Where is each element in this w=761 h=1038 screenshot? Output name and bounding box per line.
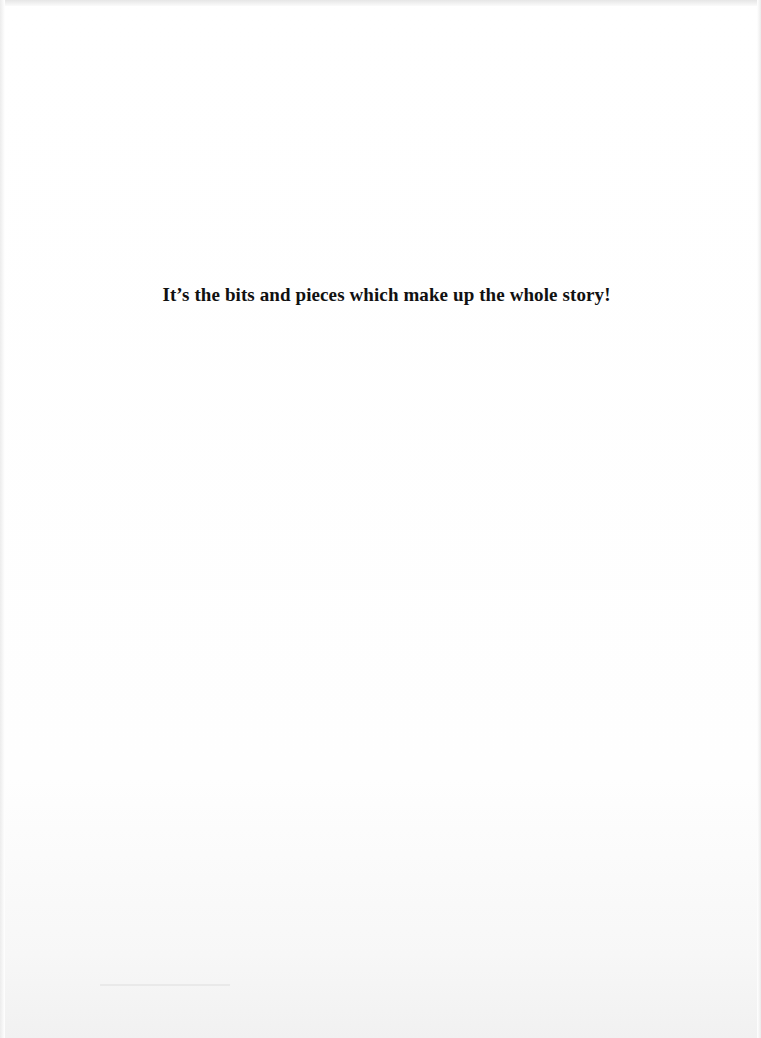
epigraph-text: It’s the bits and pieces which make up t… (162, 284, 610, 305)
page-right-edge (757, 0, 761, 1038)
page-top-edge (0, 0, 761, 6)
book-page: It’s the bits and pieces which make up t… (0, 0, 761, 1038)
page-left-edge (0, 0, 5, 1038)
scan-artifact (100, 984, 230, 986)
epigraph: It’s the bits and pieces which make up t… (0, 283, 761, 307)
